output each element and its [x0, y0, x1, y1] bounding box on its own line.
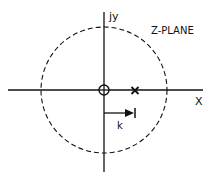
plane-title: Z-PLANE [151, 25, 194, 36]
vector-k [104, 108, 135, 118]
arrowhead-icon [125, 109, 134, 117]
real-axis-label: X [195, 95, 203, 108]
vector-k-label: k [117, 120, 123, 131]
z-plane-diagram: jy Z-PLANE X k [0, 0, 210, 176]
imag-axis-label: jy [108, 10, 119, 23]
